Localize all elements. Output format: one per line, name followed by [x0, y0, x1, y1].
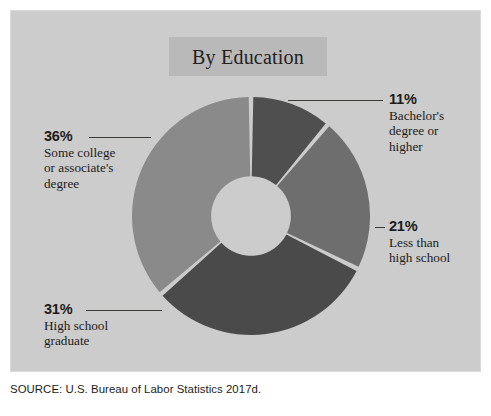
- callout-some-college-description: Some college or associate's degree: [44, 145, 164, 191]
- callout-bachelors-percent: 11%: [389, 92, 485, 107]
- callout-high-school-graduate: 31% High school graduate: [44, 302, 164, 349]
- callout-bachelors-description: Bachelor's degree or higher: [389, 108, 485, 154]
- donut-slices: [132, 97, 370, 335]
- source-note: SOURCE: U.S. Bureau of Labor Statistics …: [10, 383, 261, 395]
- chart-title: By Education: [192, 47, 304, 67]
- callout-high-school-graduate-percent: 31%: [44, 302, 164, 317]
- donut-chart: [132, 97, 370, 335]
- callout-high-school-graduate-description: High school graduate: [44, 318, 164, 349]
- donut-chart-svg: [132, 97, 370, 335]
- leader-line-less-than-high-school: [375, 227, 385, 228]
- callout-bachelors: 11% Bachelor's degree or higher: [389, 92, 485, 154]
- callout-less-than-high-school-percent: 21%: [389, 219, 485, 234]
- education-donut-figure: By Education 11% Bachelor's degree or hi…: [0, 0, 491, 416]
- chart-title-box: By Education: [169, 37, 327, 76]
- callout-some-college-percent: 36%: [44, 129, 164, 144]
- leader-line-bachelors: [288, 100, 383, 101]
- callout-some-college: 36% Some college or associate's degree: [44, 129, 164, 191]
- callout-less-than-high-school: 21% Less than high school: [389, 219, 485, 266]
- callout-less-than-high-school-description: Less than high school: [389, 235, 485, 266]
